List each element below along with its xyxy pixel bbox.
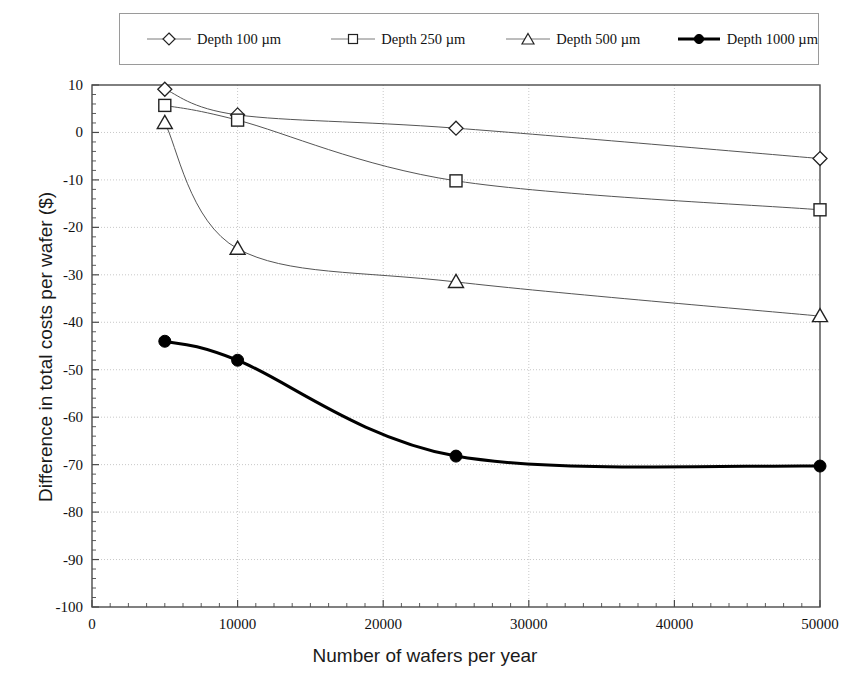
x-tick-label: 40000: [656, 616, 694, 633]
marker-square: [232, 114, 244, 126]
x-tick-label: 10000: [219, 616, 257, 633]
y-tick-label: -90: [63, 551, 83, 568]
y-tick-label: -80: [63, 504, 83, 521]
x-tick-label: 0: [88, 616, 96, 633]
marker-circle: [814, 460, 826, 472]
y-tick-label: 10: [68, 77, 83, 94]
marker-square: [814, 204, 826, 216]
marker-triangle: [813, 309, 828, 322]
y-tick-label: 0: [76, 124, 84, 141]
y-tick-label: -70: [63, 456, 83, 473]
series-1: [158, 82, 827, 165]
y-tick-label: -30: [63, 266, 83, 283]
plot-frame: [92, 85, 820, 607]
marker-square: [450, 175, 462, 187]
y-tick-label: -40: [63, 314, 83, 331]
x-tick-label: 30000: [510, 616, 548, 633]
series-3: [157, 115, 827, 321]
series-4: [159, 335, 826, 472]
x-tick-label: 20000: [364, 616, 402, 633]
series-line: [165, 105, 820, 209]
marker-triangle: [230, 241, 245, 254]
marker-square: [159, 99, 171, 111]
marker-triangle: [157, 115, 172, 128]
chart-figure: Depth 100 µm Depth 250 µm Depth 500 µm: [0, 0, 850, 687]
series-line: [165, 123, 820, 316]
marker-diamond: [449, 121, 463, 135]
y-tick-label: -10: [63, 171, 83, 188]
marker-circle: [159, 335, 171, 347]
marker-circle: [232, 354, 244, 366]
series-line: [165, 341, 820, 467]
y-tick-label: -20: [63, 219, 83, 236]
y-tick-label: -60: [63, 409, 83, 426]
marker-circle: [450, 450, 462, 462]
y-tick-label: -50: [63, 361, 83, 378]
y-axis-title: Difference in total costs per wafer ($): [35, 87, 57, 607]
plot-area: [0, 0, 850, 687]
marker-diamond: [813, 152, 827, 166]
x-axis-title: Number of wafers per year: [0, 645, 850, 667]
series-line: [165, 89, 820, 158]
y-tick-label: -100: [56, 599, 84, 616]
x-tick-label: 50000: [801, 616, 839, 633]
